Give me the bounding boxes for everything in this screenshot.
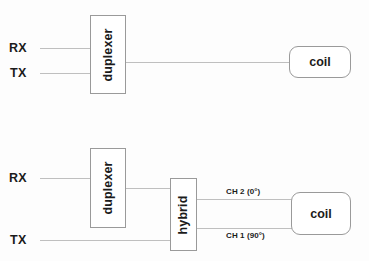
top-duplexer-label: duplexer xyxy=(101,28,115,81)
top-duplexer-block: duplexer xyxy=(90,15,126,94)
bottom-coil-block: coil xyxy=(291,192,351,235)
top-coil-block: coil xyxy=(289,46,351,78)
top-rx-port-label: RX xyxy=(9,41,27,55)
duplexer-to-hybrid-wire xyxy=(126,188,171,189)
bottom-tx-port-label: TX xyxy=(10,233,27,247)
top-duplexer-to-coil-wire xyxy=(126,62,290,63)
hybrid-block: hybrid xyxy=(170,178,197,251)
ch1-label: CH 1 (90°) xyxy=(226,231,265,240)
top-tx-port-label: TX xyxy=(10,66,27,80)
bottom-rx-port-label: RX xyxy=(9,171,27,185)
bottom-tx-wire xyxy=(40,240,171,241)
ch1-wire xyxy=(197,228,292,229)
bottom-duplexer-block: duplexer xyxy=(90,148,126,228)
ch2-label: CH 2 (0°) xyxy=(226,187,260,196)
top-rx-wire xyxy=(40,48,91,49)
top-tx-wire xyxy=(40,73,91,74)
bottom-duplexer-label: duplexer xyxy=(101,162,115,215)
block-diagram-figure: RX TX duplexer coil RX TX duplexer hybri… xyxy=(0,0,369,261)
ch2-wire xyxy=(197,199,292,200)
hybrid-label: hybrid xyxy=(177,195,191,234)
bottom-rx-wire xyxy=(40,178,91,179)
